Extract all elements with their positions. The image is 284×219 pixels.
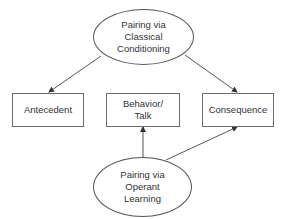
arrow-classical-to-consequence <box>185 55 237 92</box>
node-label-line: Talk <box>135 110 152 122</box>
arrow-classical-to-antecedent <box>49 56 101 92</box>
node-antecedent: Antecedent <box>12 93 84 127</box>
node-behavior-talk: Behavior/ Talk <box>106 93 180 127</box>
node-label-line: Operant <box>125 181 159 193</box>
node-label-line: Antecedent <box>24 104 72 116</box>
node-label-line: Behavior/ <box>123 98 163 110</box>
node-label-line: Classical <box>124 31 162 43</box>
node-label-line: Learning <box>124 193 161 205</box>
arrow-operant-to-consequence <box>166 127 237 160</box>
node-label-line: Conditioning <box>117 43 170 55</box>
node-consequence: Consequence <box>202 93 274 127</box>
node-label-line: Consequence <box>209 104 268 116</box>
node-label-line: Pairing via <box>120 169 164 181</box>
abc-pairing-diagram: Pairing via Classical Conditioning Antec… <box>0 0 284 219</box>
node-operant-learning: Pairing via Operant Learning <box>93 157 192 217</box>
node-classical-conditioning: Pairing via Classical Conditioning <box>93 9 194 65</box>
node-label-line: Pairing via <box>121 19 165 31</box>
